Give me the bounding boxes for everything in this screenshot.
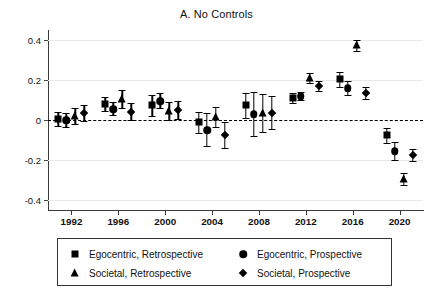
error-bar-cap — [242, 118, 249, 119]
data-point-circle-icon — [110, 105, 118, 113]
legend-item[interactable]: Egocentric, Retrospective — [68, 245, 203, 263]
grid-line — [48, 80, 423, 81]
chart-title: A. No Controls — [0, 8, 433, 20]
error-bar-cap — [110, 115, 117, 116]
error-bar-cap — [344, 95, 351, 96]
chart-legend: Egocentric, RetrospectiveEgocentric, Pro… — [57, 238, 392, 286]
data-point-square-icon — [196, 119, 203, 126]
error-bar-cap — [149, 116, 156, 117]
data-point-triangle-icon — [71, 111, 79, 119]
error-bar-cap — [72, 108, 79, 109]
error-bar-cap — [315, 91, 322, 92]
data-point-square-icon — [55, 116, 62, 123]
legend-item[interactable]: Societal, Retrospective — [68, 264, 191, 282]
error-bar-cap — [81, 105, 88, 106]
data-point-diamond-icon — [315, 82, 323, 90]
error-bar-cap — [166, 120, 173, 121]
x-tick-mark — [400, 211, 401, 215]
error-bar-cap — [259, 94, 266, 95]
error-bar-cap — [128, 103, 135, 104]
error-bar-cap — [119, 108, 126, 109]
error-bar-cap — [175, 101, 182, 102]
error-bar-cap — [289, 103, 296, 104]
data-point-circle-icon — [344, 84, 352, 92]
legend-label: Egocentric, Prospective — [257, 249, 362, 260]
data-point-circle-icon — [297, 92, 305, 100]
error-bar-cap — [409, 161, 416, 162]
x-tick-mark — [118, 211, 119, 215]
y-tick-label: -0.4 — [1, 195, 41, 206]
legend-marker-circle-icon — [236, 247, 250, 261]
data-point-triangle-icon — [212, 112, 220, 120]
error-bar-cap — [250, 92, 257, 93]
grid-line — [48, 160, 423, 161]
data-point-triangle-icon — [259, 108, 267, 116]
legend-item[interactable]: Egocentric, Prospective — [236, 245, 362, 263]
grid-line — [48, 40, 423, 41]
y-tick-label: 0 — [1, 115, 41, 126]
data-point-diamond-icon — [221, 131, 229, 139]
data-point-circle-icon — [203, 126, 211, 134]
x-axis-line — [48, 210, 424, 211]
x-tick-mark — [71, 211, 72, 215]
error-bar-cap — [383, 128, 390, 129]
data-point-square-icon — [102, 101, 109, 108]
x-tick-label: 2012 — [283, 216, 329, 227]
legend-item[interactable]: Societal, Prospective — [236, 264, 350, 282]
error-bar-cap — [213, 107, 220, 108]
error-bar-cap — [55, 126, 62, 127]
data-point-diamond-icon — [174, 106, 182, 114]
x-tick-label: 2016 — [330, 216, 376, 227]
error-bar-cap — [128, 120, 135, 121]
x-tick-mark — [165, 211, 166, 215]
error-bar-cap — [336, 72, 343, 73]
error-bar-cap — [72, 124, 79, 125]
error-bar-cap — [81, 121, 88, 122]
data-point-square-icon — [383, 132, 390, 139]
x-tick-label: 2008 — [236, 216, 282, 227]
error-bar-cap — [336, 87, 343, 88]
error-bar-cap — [157, 93, 164, 94]
error-bar-cap — [268, 129, 275, 130]
figure-container: A. No Controls 0.40.20-0.2-0.41992199620… — [0, 0, 433, 302]
x-tick-mark — [259, 211, 260, 215]
data-point-circle-icon — [391, 147, 399, 155]
error-bar-cap — [259, 132, 266, 133]
data-point-square-icon — [336, 76, 343, 83]
data-point-circle-icon — [250, 110, 258, 118]
error-bar-cap — [250, 136, 257, 137]
error-bar-cap — [63, 127, 70, 128]
y-tick-label: 0.4 — [1, 35, 41, 46]
error-bar-cap — [102, 111, 109, 112]
data-point-triangle-icon — [352, 40, 360, 48]
error-bar-cap — [213, 127, 220, 128]
error-bar-cap — [242, 93, 249, 94]
data-point-square-icon — [289, 95, 296, 102]
data-point-square-icon — [149, 102, 156, 109]
data-point-diamond-icon — [127, 108, 135, 116]
x-tick-mark — [212, 211, 213, 215]
x-tick-label: 2000 — [142, 216, 188, 227]
x-tick-label: 2004 — [189, 216, 235, 227]
data-point-diamond-icon — [408, 151, 416, 159]
plot-area — [48, 30, 423, 210]
error-bar-cap — [362, 99, 369, 100]
error-bar-cap — [306, 83, 313, 84]
error-bar-cap — [222, 122, 229, 123]
error-bar-cap — [383, 143, 390, 144]
error-bar-cap — [157, 108, 164, 109]
data-point-triangle-icon — [165, 106, 173, 114]
error-bar-cap — [204, 146, 211, 147]
y-tick-label: 0.2 — [1, 75, 41, 86]
legend-marker-square-icon — [68, 247, 82, 261]
error-bar-cap — [110, 102, 117, 103]
error-bar-cap — [149, 95, 156, 96]
legend-marker-triangle-icon — [68, 266, 82, 280]
error-bar-cap — [344, 81, 351, 82]
error-bar-cap — [102, 97, 109, 98]
data-point-triangle-icon — [118, 94, 126, 102]
data-point-square-icon — [242, 102, 249, 109]
error-bar-cap — [175, 119, 182, 120]
error-bar-cap — [297, 100, 304, 101]
error-bar-cap — [400, 185, 407, 186]
